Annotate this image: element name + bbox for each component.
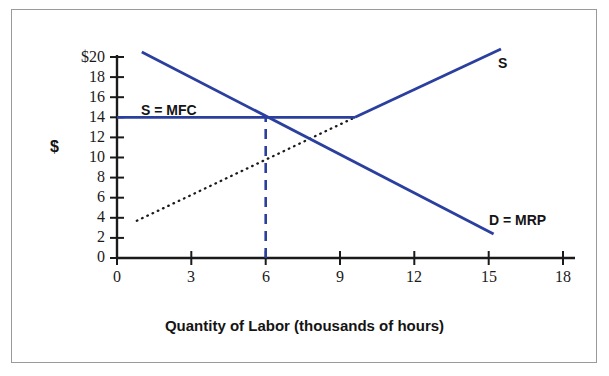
y-tick-label: 0 [55,249,105,265]
y-tick-label: 2 [55,229,105,245]
y-tick-label: 14 [55,109,105,125]
y-tick-label: 8 [55,169,105,185]
supply-curve-label: S [498,56,507,70]
y-tick-label: 10 [55,149,105,165]
demand-curve-label: D = MRP [489,213,546,227]
x-tick-label: 6 [246,269,286,285]
x-tick-label: 15 [469,269,509,285]
y-tick-label: 16 [55,89,105,105]
y-tick-label: 18 [55,69,105,85]
x-tick-label: 0 [97,269,137,285]
x-tick-label: 18 [543,269,583,285]
labor-supply-dotted-curve [137,117,355,221]
y-tick-label: 12 [55,129,105,145]
supply-upward-curve [355,49,501,117]
y-axis-title: $ [50,139,59,155]
x-tick-label: 9 [320,269,360,285]
y-tick-label: 6 [55,189,105,205]
y-tick-label: 4 [55,209,105,225]
mfc-curve-label: S = MFC [141,103,197,117]
x-tick-label: 3 [171,269,211,285]
x-tick-label: 12 [394,269,434,285]
demand-curve [142,52,494,234]
y-tick-label: $20 [55,49,105,65]
x-axis-title: Quantity of Labor (thousands of hours) [0,318,609,333]
chart-figure: $20 18 16 14 12 10 8 6 4 2 0 0 3 6 9 12 … [0,0,609,376]
